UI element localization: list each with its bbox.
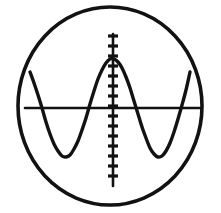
figure-root: Waveform in circular frame Hand-drawn ci… [0,0,221,213]
waveform-figure [0,0,221,213]
